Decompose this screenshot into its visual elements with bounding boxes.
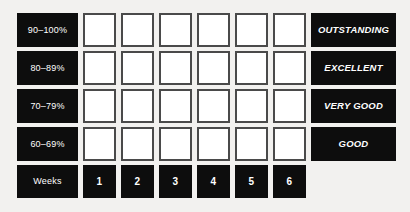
week-number-5: 5 bbox=[235, 165, 268, 198]
week-number-4: 4 bbox=[197, 165, 230, 198]
checkbox-cell-r1c4[interactable] bbox=[197, 13, 230, 47]
checkbox-cell-r4c6[interactable] bbox=[273, 127, 306, 161]
checkbox-cell-r4c3[interactable] bbox=[159, 127, 192, 161]
checkbox-cell-r4c5[interactable] bbox=[235, 127, 268, 161]
checkbox-cell-r1c6[interactable] bbox=[273, 13, 306, 47]
week-number-1: 1 bbox=[83, 165, 116, 198]
checkbox-cell-r3c1[interactable] bbox=[83, 89, 116, 123]
checkbox-cell-r3c3[interactable] bbox=[159, 89, 192, 123]
weeks-header-label: Weeks bbox=[17, 165, 78, 198]
checkbox-cell-r4c1[interactable] bbox=[83, 127, 116, 161]
row-label-range-4: 60–69% bbox=[17, 127, 78, 161]
checkbox-cell-r4c4[interactable] bbox=[197, 127, 230, 161]
week-number-3: 3 bbox=[159, 165, 192, 198]
checkbox-cell-r2c4[interactable] bbox=[197, 51, 230, 85]
row-label-range-1: 90–100% bbox=[17, 13, 78, 47]
checkbox-cell-r3c2[interactable] bbox=[121, 89, 154, 123]
row-label-rating-4: GOOD bbox=[311, 127, 396, 161]
checkbox-cell-r1c2[interactable] bbox=[121, 13, 154, 47]
checkbox-cell-r1c1[interactable] bbox=[83, 13, 116, 47]
checkbox-cell-r1c3[interactable] bbox=[159, 13, 192, 47]
checkbox-cell-r3c4[interactable] bbox=[197, 89, 230, 123]
week-number-6: 6 bbox=[273, 165, 306, 198]
row-label-rating-1: OUTSTANDING bbox=[311, 13, 396, 47]
checkbox-cell-r3c5[interactable] bbox=[235, 89, 268, 123]
row-label-rating-3: VERY GOOD bbox=[311, 89, 396, 123]
week-number-2: 2 bbox=[121, 165, 154, 198]
checkbox-cell-r2c3[interactable] bbox=[159, 51, 192, 85]
row-label-range-2: 80–89% bbox=[17, 51, 78, 85]
row-label-range-3: 70–79% bbox=[17, 89, 78, 123]
checkbox-cell-r1c5[interactable] bbox=[235, 13, 268, 47]
chart-grid: 90–100% OUTSTANDING 80–89% EXCELLENT bbox=[17, 13, 396, 198]
grade-tracking-chart: 90–100% OUTSTANDING 80–89% EXCELLENT bbox=[0, 0, 410, 212]
checkbox-cell-r2c1[interactable] bbox=[83, 51, 116, 85]
footer-right-empty bbox=[311, 165, 396, 198]
checkbox-cell-r3c6[interactable] bbox=[273, 89, 306, 123]
checkbox-cell-r4c2[interactable] bbox=[121, 127, 154, 161]
checkbox-cell-r2c5[interactable] bbox=[235, 51, 268, 85]
row-label-rating-2: EXCELLENT bbox=[311, 51, 396, 85]
checkbox-cell-r2c2[interactable] bbox=[121, 51, 154, 85]
checkbox-cell-r2c6[interactable] bbox=[273, 51, 306, 85]
